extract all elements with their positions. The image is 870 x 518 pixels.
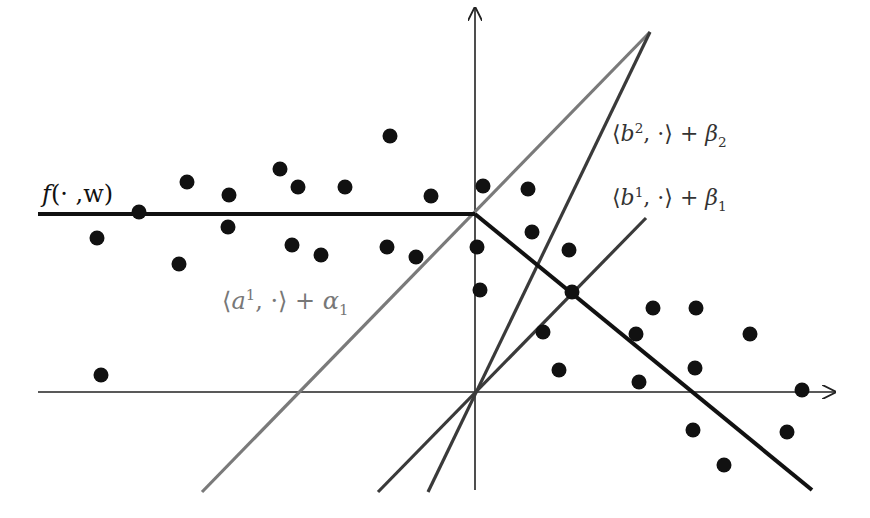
data-point: [172, 257, 187, 272]
diagram-canvas: [0, 0, 870, 518]
data-point: [470, 240, 485, 255]
data-point: [743, 327, 758, 342]
data-point: [291, 180, 306, 195]
data-point: [132, 205, 147, 220]
affine-line-b2: [428, 32, 650, 492]
data-point: [632, 375, 647, 390]
data-point: [525, 225, 540, 240]
function-f-sloped-segment: [475, 214, 812, 490]
data-point: [409, 250, 424, 265]
data-point: [521, 182, 536, 197]
data-point: [380, 240, 395, 255]
data-point: [780, 425, 795, 440]
label-b1: ⟨b1, ·⟩ + β1: [612, 186, 727, 213]
data-point: [689, 301, 704, 316]
data-point: [222, 188, 237, 203]
data-point: [424, 189, 439, 204]
data-point: [795, 383, 810, 398]
data-point: [565, 285, 580, 300]
data-point: [180, 175, 195, 190]
data-point: [285, 238, 300, 253]
data-point: [646, 301, 661, 316]
data-point: [562, 243, 577, 258]
data-point: [717, 458, 732, 473]
data-point: [473, 283, 488, 298]
label-b2: ⟨b2, ·⟩ + β2: [612, 122, 727, 149]
data-point: [338, 180, 353, 195]
data-point: [314, 248, 329, 263]
data-point: [552, 363, 567, 378]
affine-line-a1: [202, 32, 650, 492]
data-point: [629, 327, 644, 342]
label-a1: ⟨a1, ·⟩ + α1: [222, 288, 348, 318]
label-f: f(· ,w): [42, 182, 113, 206]
data-point: [688, 361, 703, 376]
data-point: [476, 179, 491, 194]
data-point: [536, 325, 551, 340]
data-point: [686, 423, 701, 438]
data-point: [94, 368, 109, 383]
data-point: [383, 129, 398, 144]
data-point: [273, 162, 288, 177]
data-point: [221, 220, 236, 235]
data-point: [90, 231, 105, 246]
